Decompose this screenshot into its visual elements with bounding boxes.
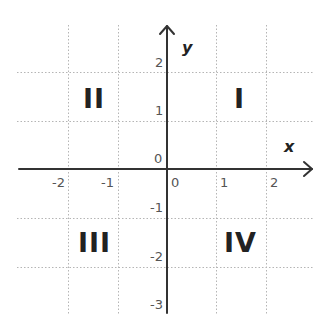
y-tick-label: -3 [150,298,163,311]
axes [19,26,312,313]
quadrant-label-i: I [234,85,245,112]
x-tick-label: 2 [270,176,278,189]
quadrant-label-iv: IV [224,229,257,256]
x-axis-label: x [284,139,294,155]
y-axis-label: y [182,40,192,56]
y-tick-label: 2 [155,56,163,69]
y-tick-label: 1 [155,104,163,117]
x-tick-label: 1 [220,176,228,189]
quadrant-label-iii: III [78,229,111,256]
origin-label-x: 0 [171,176,179,189]
x-tick-label: -1 [101,176,114,189]
y-tick-label: -2 [150,250,163,263]
origin-label-y: 0 [154,152,162,165]
coordinate-plane-graphic [0,0,332,329]
quadrant-label-ii: II [83,85,105,112]
y-tick-label: -1 [150,201,163,214]
x-tick-label: -2 [52,176,65,189]
